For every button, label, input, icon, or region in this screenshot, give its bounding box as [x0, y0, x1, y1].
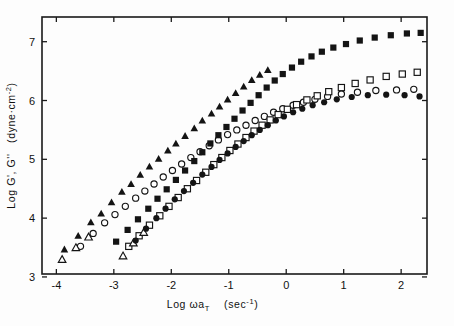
figure-container: -4-3-2-101234567Log ωaT (sec-1)Log G', G…	[0, 0, 454, 326]
data-point	[207, 140, 213, 146]
data-point	[155, 155, 163, 162]
data-point	[411, 86, 417, 92]
data-point	[112, 212, 118, 218]
data-point	[256, 92, 262, 98]
data-point	[199, 149, 205, 155]
data-point	[319, 49, 325, 55]
series-4	[58, 229, 147, 263]
data-point	[416, 93, 422, 99]
x-tick-label: 2	[398, 279, 404, 291]
series-0	[61, 66, 272, 252]
data-point	[181, 132, 189, 139]
data-point	[372, 34, 378, 40]
data-point	[223, 124, 229, 130]
scatter-plot: -4-3-2-101234567Log ωaT (sec-1)Log G', G…	[0, 0, 454, 326]
data-point	[172, 140, 180, 147]
data-point	[321, 99, 327, 105]
x-tick-label: -3	[109, 279, 119, 291]
data-point	[249, 132, 255, 138]
data-point	[216, 157, 222, 163]
data-point	[272, 77, 278, 83]
data-point	[399, 71, 405, 77]
y-tick-label: 6	[29, 95, 35, 107]
data-point	[247, 100, 253, 106]
series-3	[126, 69, 421, 249]
data-point	[225, 132, 231, 138]
y-tick-label: 4	[29, 212, 35, 224]
data-point	[352, 80, 358, 86]
data-point	[90, 230, 96, 236]
data-point	[215, 132, 221, 138]
data-point	[135, 216, 141, 222]
data-point	[284, 106, 290, 112]
data-point	[173, 177, 179, 183]
x-tick-label: -4	[51, 279, 61, 291]
data-point	[240, 83, 248, 90]
data-point	[248, 76, 256, 83]
data-point	[418, 30, 424, 36]
data-point	[243, 122, 249, 128]
data-point	[233, 144, 239, 150]
data-point	[190, 124, 198, 131]
data-point	[293, 102, 299, 108]
data-point	[338, 91, 344, 97]
data-point	[273, 117, 279, 123]
data-point	[330, 44, 336, 50]
y-tick-label: 5	[29, 153, 35, 165]
data-point	[160, 174, 166, 180]
data-point	[264, 66, 272, 73]
data-point	[145, 206, 151, 212]
data-point	[326, 89, 332, 95]
data-point	[74, 232, 82, 239]
data-point	[239, 107, 245, 113]
data-point	[224, 96, 232, 103]
data-point	[142, 188, 148, 194]
data-point	[343, 41, 349, 47]
data-point	[401, 92, 407, 98]
data-point	[290, 109, 296, 115]
data-point	[281, 113, 287, 119]
x-axis-label: Log ωaT (sec-1)	[167, 297, 259, 313]
data-point	[338, 84, 344, 90]
data-point	[349, 94, 355, 100]
data-point	[61, 246, 69, 253]
y-tick-label: 3	[29, 271, 35, 283]
data-point	[133, 195, 139, 201]
y-tick-label: 7	[29, 36, 35, 48]
data-point	[383, 92, 389, 98]
data-point	[143, 226, 149, 232]
data-point	[232, 89, 240, 96]
data-point	[136, 171, 144, 178]
data-point	[208, 110, 216, 117]
data-point	[298, 59, 304, 65]
data-point	[257, 127, 263, 133]
data-point	[365, 92, 371, 98]
data-point	[275, 112, 281, 118]
data-point	[252, 117, 258, 123]
data-point	[102, 220, 108, 226]
data-point	[265, 122, 271, 128]
data-point	[383, 73, 389, 79]
data-point	[208, 164, 214, 170]
data-point	[154, 196, 160, 202]
data-point	[87, 219, 95, 226]
data-point	[299, 106, 305, 112]
data-point	[153, 215, 159, 221]
data-point	[404, 30, 410, 36]
svg-text:Log G', G'' (dyne·cm-2): Log G', G'' (dyne·cm-2)	[4, 82, 17, 208]
data-point	[234, 127, 240, 133]
data-point	[373, 87, 379, 93]
data-point	[357, 37, 363, 43]
data-point	[146, 163, 154, 170]
data-point	[367, 77, 373, 83]
data-point	[162, 206, 168, 212]
data-point	[334, 96, 340, 102]
data-point	[118, 188, 126, 195]
data-point	[216, 103, 224, 110]
data-point	[122, 203, 128, 209]
data-point	[289, 64, 295, 70]
y-axis-label: Log G', G'' (dyne·cm-2)	[4, 82, 17, 208]
data-point	[125, 227, 131, 233]
data-point	[264, 84, 270, 90]
x-tick-label: 1	[341, 279, 347, 291]
